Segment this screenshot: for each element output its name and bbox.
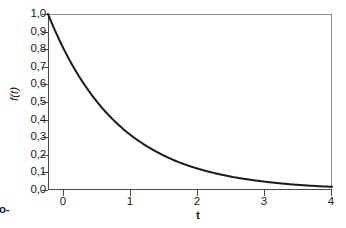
y-tick-label-0.4: 0,4 — [12, 114, 46, 126]
y-axis-title: f(t) — [8, 74, 20, 114]
x-tick-label-4: 4 — [316, 196, 346, 208]
exponential-decay-curve — [48, 14, 332, 190]
y-tick-label-0.0: 0,0 — [12, 184, 46, 196]
caption-fragment: xpo- =1 — [0, 203, 46, 227]
x-tick-label-0: 0 — [48, 196, 78, 208]
y-tick-label-0.3: 0,3 — [12, 131, 46, 143]
x-tick-label-1: 1 — [115, 196, 145, 208]
x-tick-label-3: 3 — [249, 196, 279, 208]
y-tick-label-0.9: 0,9 — [12, 26, 46, 38]
y-tick-label-0.7: 0,7 — [12, 61, 46, 73]
x-axis-title: t — [183, 210, 213, 222]
curve-polyline — [48, 14, 332, 187]
y-tick-label-0.1: 0,1 — [12, 166, 46, 178]
figure-container: 1,0 0,9 0,8 0,7 0,6 0,5 0,4 0,3 0,2 0,1 … — [0, 0, 346, 228]
x-tick-label-2: 2 — [182, 196, 212, 208]
y-tick-label-1.0: 1,0 — [12, 8, 46, 20]
caption-line-2: =1 — [0, 215, 46, 227]
caption-line-1: xpo- — [0, 203, 46, 215]
y-tick-label-0.2: 0,2 — [12, 149, 46, 161]
y-tick-label-0.8: 0,8 — [12, 43, 46, 55]
